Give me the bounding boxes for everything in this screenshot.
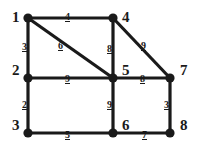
- edge-weight-label: 8: [140, 74, 145, 84]
- edge-weight-label: 3: [22, 42, 27, 52]
- graph-edge: [28, 18, 113, 78]
- edge-weight-label: 3: [164, 100, 169, 110]
- node-label: 2: [12, 63, 20, 78]
- graph-node[interactable]: [108, 128, 117, 137]
- edge-weight-label: 7: [142, 130, 147, 140]
- edge-weight-label: 9: [107, 100, 112, 110]
- edge-weight-label: 2: [22, 100, 27, 110]
- edge-weight-label: 9: [141, 41, 146, 51]
- graph-node[interactable]: [108, 73, 117, 82]
- node-label: 7: [180, 63, 188, 78]
- graph-node[interactable]: [165, 128, 174, 137]
- graph-node[interactable]: [23, 128, 32, 137]
- edge-layer: [28, 18, 170, 133]
- graph-node[interactable]: [23, 13, 32, 22]
- node-label: 4: [122, 10, 130, 25]
- node-label: 8: [180, 118, 188, 133]
- graph-canvas: [0, 0, 199, 151]
- graph-node[interactable]: [23, 73, 32, 82]
- node-label: 5: [122, 63, 130, 78]
- node-label: 6: [122, 118, 130, 133]
- node-label: 3: [12, 118, 20, 133]
- node-label: 1: [12, 10, 20, 25]
- graph-node[interactable]: [165, 73, 174, 82]
- weighted-graph-figure: 43689928935714257368: [0, 0, 199, 151]
- edge-weight-label: 4: [65, 12, 70, 22]
- edge-weight-label: 8: [107, 44, 112, 54]
- edge-weight-label: 9: [65, 74, 70, 84]
- edge-weight-label: 5: [65, 130, 70, 140]
- edge-weight-label: 6: [58, 41, 63, 51]
- graph-node[interactable]: [108, 13, 117, 22]
